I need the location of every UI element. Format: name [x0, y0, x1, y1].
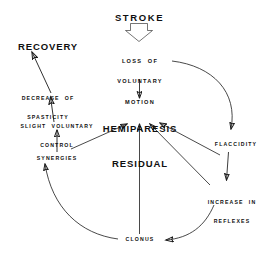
node-decrease-line-1: DECREASE OF: [7, 95, 89, 101]
node-hemiparesis-line-2: RESIDUAL: [90, 158, 190, 170]
node-stroke: STROKE: [97, 12, 182, 24]
node-loss-line-2: VOLUNTARY: [102, 78, 178, 85]
node-increase-in-reflexes: INCREASE IN REFLEXES: [194, 186, 270, 230]
node-reflexes-line-2: REFLEXES: [194, 218, 270, 224]
edge-flaccidity-to-reflexes: [227, 152, 229, 180]
node-reflexes-line-1: INCREASE IN: [194, 199, 270, 205]
node-synergies: SYNERGIES: [28, 155, 86, 161]
node-clonus: CLONUS: [117, 236, 163, 242]
node-hemiparesis-residual: HEMIPARESIS RESIDUAL: [90, 100, 190, 181]
node-recovery: RECOVERY: [8, 41, 88, 53]
node-loss-line-1: LOSS OF: [102, 58, 178, 65]
node-flaccidity: FLACCIDITY: [204, 141, 268, 147]
edge-stroke-to-loss: [126, 24, 153, 42]
node-hemiparesis-line-1: HEMIPARESIS: [90, 123, 190, 135]
